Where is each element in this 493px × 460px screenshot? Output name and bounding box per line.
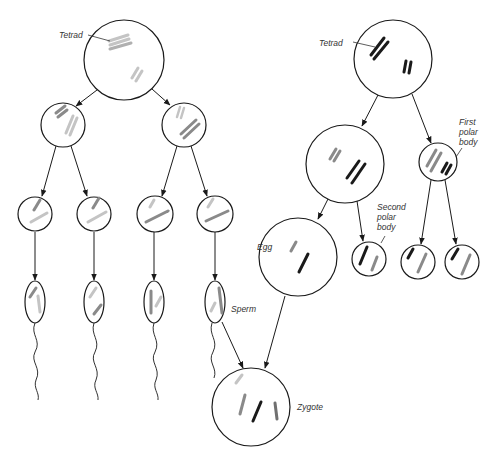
- first-polar-body-leader: [456, 148, 462, 157]
- arrow: [162, 146, 177, 196]
- zygote-cell: [212, 368, 290, 446]
- secondary-spermatocyte-cell: [41, 103, 85, 147]
- arrow: [421, 180, 431, 244]
- arrow: [42, 146, 56, 196]
- arrow: [71, 146, 87, 196]
- second-polar-body-leader: [381, 236, 385, 243]
- second-polar-body-label-line3: body: [377, 222, 396, 232]
- male-lineage: Tetrad: [18, 20, 256, 400]
- first-polar-body-cell: [419, 143, 457, 181]
- first-polar-body-label-line1: First: [459, 117, 476, 127]
- fertilization: Zygote: [212, 296, 323, 446]
- female-lineage: Tetrad First polar body Egg Second polar…: [257, 20, 479, 296]
- tetrad-label: Tetrad: [59, 30, 83, 40]
- egg-cell: [259, 218, 337, 296]
- egg-label: Egg: [257, 242, 272, 252]
- spermatid-cell: [197, 196, 233, 232]
- arrow: [76, 90, 97, 106]
- second-polar-body-label-line1: Second: [377, 202, 406, 212]
- sperm-label: Sperm: [231, 304, 256, 314]
- first-polar-body-label-line2: polar: [458, 127, 479, 137]
- arrow: [362, 95, 378, 126]
- spermatid-cell: [137, 196, 173, 232]
- primary-oocyte-cell: [354, 20, 432, 98]
- first-polar-body-label-line3: body: [459, 137, 478, 147]
- arrow: [318, 199, 328, 219]
- zygote-label: Zygote: [296, 402, 323, 412]
- arrow: [445, 180, 456, 244]
- arrow-egg-to-zygote: [265, 296, 285, 368]
- arrow: [191, 146, 207, 196]
- arrow: [357, 201, 363, 241]
- spermatid-cell: [77, 197, 111, 231]
- second-polar-body-cell: [352, 242, 386, 276]
- sperm-cell: [205, 281, 225, 378]
- sperm-cell: [144, 281, 164, 400]
- tetrad-label: Tetrad: [319, 38, 343, 48]
- arrow: [152, 89, 170, 105]
- arrow-sperm-to-zygote: [222, 322, 243, 368]
- sperm-cell: [84, 281, 104, 400]
- primary-spermatocyte-cell: [84, 20, 164, 100]
- arrow: [412, 94, 431, 143]
- polar-body-product-cell: [401, 245, 435, 279]
- meiosis-diagram: Tetrad: [0, 0, 493, 460]
- sperm-cell: [25, 281, 45, 400]
- secondary-oocyte-cell: [306, 125, 384, 203]
- second-polar-body-label-line2: polar: [376, 212, 397, 222]
